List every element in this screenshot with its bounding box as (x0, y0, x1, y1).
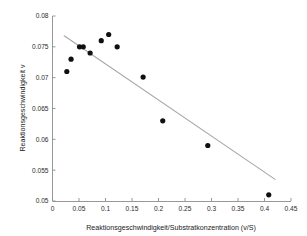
data-point-marker (160, 118, 165, 123)
data-point-marker (115, 44, 120, 49)
chart-canvas: 00.050.10.150.20.250.30.350.40.45 0.050.… (0, 0, 307, 236)
data-point-marker (205, 143, 210, 148)
data-point-marker (68, 57, 73, 62)
y-tick-label: 0.08 (36, 12, 49, 19)
regression-line (64, 36, 275, 180)
x-axis-ticks: 00.050.10.150.20.250.30.350.40.45 (51, 198, 298, 212)
x-tick-label: 0.2 (154, 205, 163, 212)
y-tick-label: 0.065 (32, 105, 49, 112)
eadie-hofstee-chart: 00.050.10.150.20.250.30.350.40.45 0.050.… (0, 0, 307, 236)
data-point-marker (266, 192, 271, 197)
x-axis-title: Reaktionsgeschwindigkeit/Substratkonzent… (86, 224, 256, 232)
data-point-marker (64, 69, 69, 74)
x-tick-label: 0 (51, 205, 55, 212)
regression-line-segment (64, 36, 275, 180)
x-tick-label: 0.05 (73, 205, 86, 212)
y-tick-label: 0.075 (32, 43, 49, 50)
x-tick-label: 0.1 (101, 205, 110, 212)
y-tick-label: 0.06 (36, 136, 49, 143)
y-axis-ticks: 0.050.0550.060.0650.070.0750.08 (32, 12, 56, 204)
y-tick-label: 0.05 (36, 197, 49, 204)
x-tick-label: 0.25 (179, 205, 192, 212)
data-point-marker (106, 32, 111, 37)
y-tick-label: 0.055 (32, 167, 49, 174)
data-point-marker (81, 44, 86, 49)
data-point-marker (141, 74, 146, 79)
x-tick-label: 0.3 (207, 205, 216, 212)
x-tick-label: 0.35 (232, 205, 245, 212)
y-axis-title: Reaktionsgeschwindigkeit v (19, 64, 27, 152)
x-tick-label: 0.45 (285, 205, 298, 212)
x-tick-label: 0.4 (260, 205, 269, 212)
y-tick-label: 0.07 (36, 74, 49, 81)
data-point-marker (99, 38, 104, 43)
x-tick-label: 0.15 (126, 205, 139, 212)
data-point-marker (88, 50, 93, 55)
